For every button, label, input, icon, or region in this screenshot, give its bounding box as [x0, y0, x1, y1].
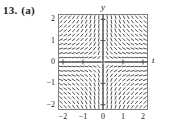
x-tick-label-0: −2 [56, 112, 70, 121]
y-tick-label-1: 1 [41, 36, 55, 45]
slope-field-canvas [58, 14, 148, 110]
x-tick-label-4: 2 [136, 112, 150, 121]
y-axis-label: y [101, 2, 105, 12]
x-tick-label-1: −1 [76, 112, 90, 121]
problem-label: 13.(a) [3, 4, 35, 16]
t-axis-label: t [152, 55, 155, 65]
y-tick-label-0: 2 [41, 14, 55, 23]
y-tick-label-4: −2 [41, 100, 55, 109]
problem-number: 13. [3, 4, 17, 16]
x-tick-label-2: 0 [96, 112, 110, 121]
slope-field-plot [58, 14, 148, 110]
y-tick-label-3: −1 [41, 78, 55, 87]
problem-part-label: (a) [21, 4, 34, 16]
y-tick-label-2: 0 [41, 57, 55, 66]
figure-root: 13.(a) y t −2 −1 0 1 2 2 1 0 −1 −2 [0, 0, 171, 132]
axis-lines [58, 14, 148, 110]
x-tick-label-3: 1 [116, 112, 130, 121]
